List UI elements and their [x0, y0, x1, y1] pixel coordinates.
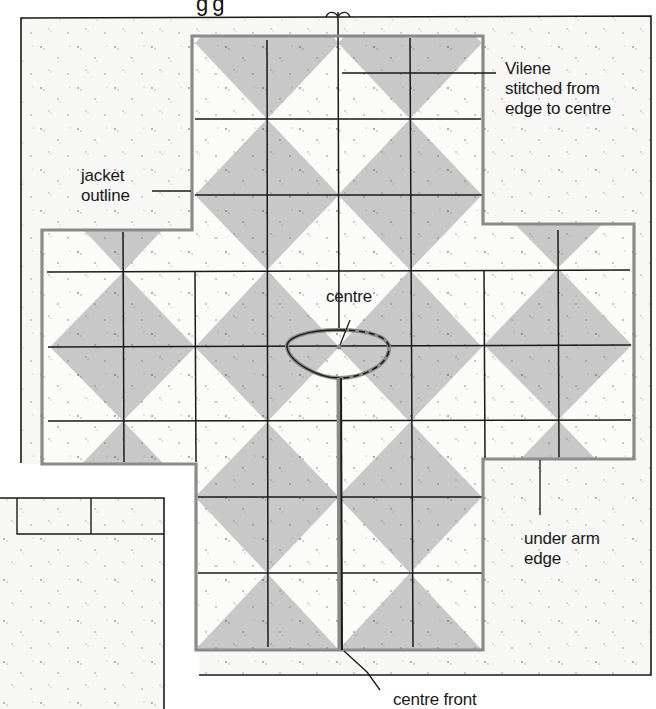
heading-fragment: gg [196, 0, 228, 17]
under-arm-edge-label: under arm edge [524, 529, 600, 569]
centre-point [337, 345, 342, 350]
centre-front-label: centre front [393, 690, 477, 709]
lower-left-sheet [0, 498, 164, 709]
centre-label: centre [326, 287, 372, 307]
jacket-outline-label: jacket outline [81, 166, 130, 206]
centre-front-line [339, 378, 342, 650]
vilene-label: Vilene stitched from edge to centre [505, 59, 611, 119]
